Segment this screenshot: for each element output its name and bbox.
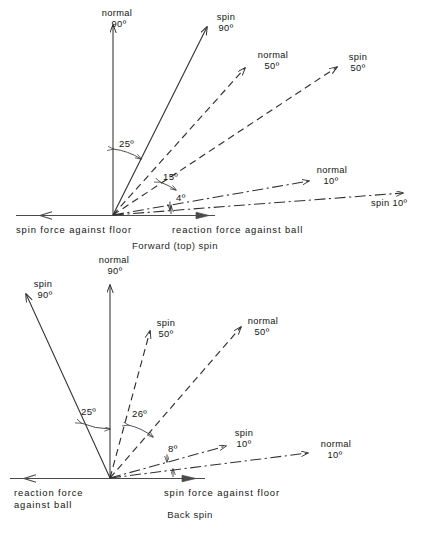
caption-back-spin: Back spin — [167, 509, 213, 520]
label-spin-90-back-l2: 90º — [38, 290, 53, 300]
label-spin-50-back-l2: 50º — [159, 329, 174, 339]
label-reaction-force-back-l1: reaction force — [14, 487, 83, 498]
label-normal-10-back-l1: normal — [321, 439, 352, 449]
label-spin-10-forward: spin 10º — [371, 198, 407, 208]
label-angle-25-forward: 25º — [119, 138, 134, 149]
label-spin-10-back-l1: spin — [235, 428, 253, 438]
label-normal-90-forward-l2: 90º — [112, 19, 127, 29]
label-normal-50-back-l2: 50º — [255, 327, 270, 337]
label-spin-force-against-floor-forward: spin force against floor — [16, 224, 132, 235]
spin-force-diagram-figure: normal 90º spin 90º normal 50º spin 50º … — [0, 0, 422, 534]
label-normal-10-forward-l1: normal — [317, 165, 348, 175]
label-spin-90-forward-l2: 90º — [219, 23, 234, 33]
label-spin-50-forward-l2: 50º — [351, 63, 366, 73]
label-angle-26-back: 26º — [132, 408, 147, 419]
label-spin-force-against-floor-back: spin force against floor — [164, 487, 280, 498]
label-normal-10-back-l2: 10º — [328, 450, 343, 460]
label-spin-50-back-l1: spin — [157, 318, 175, 328]
label-spin-90-forward-l1: spin — [217, 12, 235, 22]
label-normal-10-forward-l2: 10º — [324, 176, 339, 186]
label-spin-10-back-l2: 10º — [237, 439, 252, 449]
label-angle-25-back: 25º — [81, 406, 96, 417]
label-reaction-force-back-l2: against ball — [14, 499, 72, 510]
label-normal-90-back-l2: 90º — [108, 266, 123, 276]
label-normal-90-back-l1: normal — [99, 255, 130, 265]
label-angle-15-forward: 15º — [163, 171, 178, 182]
label-angle-8-back: 8º — [168, 443, 178, 454]
caption-forward-top-spin: Forward (top) spin — [132, 240, 218, 251]
label-normal-90-forward-l1: normal — [102, 8, 133, 18]
label-normal-50-forward-l1: normal — [258, 50, 289, 60]
label-reaction-force-against-ball-forward: reaction force against ball — [172, 224, 303, 235]
label-normal-50-forward-l2: 50º — [265, 61, 280, 71]
label-spin-90-back-l1: spin — [34, 279, 52, 289]
label-angle-4-forward: 4º — [176, 192, 186, 203]
label-spin-50-forward-l1: spin — [349, 52, 367, 62]
figure-background — [0, 0, 422, 534]
label-normal-50-back-l1: normal — [248, 316, 279, 326]
